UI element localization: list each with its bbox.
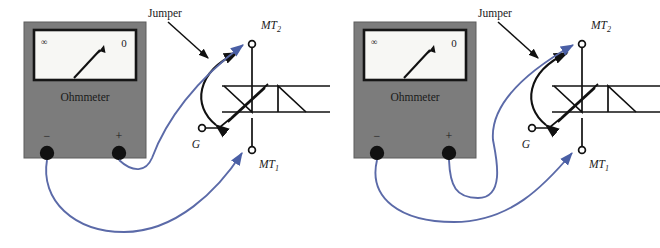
jumper-leader-line (168, 22, 208, 58)
mt1-label: MT1 (258, 158, 279, 173)
gate-diagonal-2 (558, 88, 595, 122)
negative-lead-wire (46, 153, 242, 232)
gate-label: G (192, 138, 201, 150)
mt1-label: MT1 (588, 158, 609, 173)
right-triangle (278, 86, 306, 112)
scale-label-infinity: ∞ (41, 37, 47, 47)
ohmmeter-label: Ohmmeter (390, 91, 439, 103)
negative-terminal-post[interactable] (40, 146, 54, 160)
left-triangle (224, 86, 252, 112)
triac-ohmmeter-test-figure: ∞ 0 Ohmmeter − + (0, 0, 660, 248)
mt2-terminal-node[interactable] (249, 41, 256, 48)
gate-label: G (522, 138, 531, 150)
positive-terminal-post[interactable] (442, 146, 456, 160)
negative-terminal-sign: − (44, 129, 51, 143)
scale-label-zero: 0 (451, 37, 457, 49)
gate-diagonal (231, 84, 268, 118)
ohmmeter: ∞ 0 Ohmmeter − + (354, 22, 476, 160)
mt1-terminal-node[interactable] (579, 147, 586, 154)
negative-terminal-sign: − (374, 129, 381, 143)
jumper-leader-line (498, 22, 538, 58)
ohmmeter: ∞ 0 Ohmmeter − + (24, 22, 146, 160)
triac-test-step-1: ∞ 0 Ohmmeter − + (0, 0, 330, 248)
scale-label-infinity: ∞ (371, 37, 377, 47)
mt2-label: MT2 (590, 19, 611, 34)
gate-diagonal-2 (228, 88, 265, 122)
mt1-terminal-node[interactable] (249, 147, 256, 154)
positive-terminal-sign: + (446, 129, 453, 143)
mt2-terminal-node[interactable] (579, 41, 586, 48)
ohmmeter-label: Ohmmeter (60, 91, 109, 103)
positive-lead-wire (375, 153, 572, 222)
jumper-label: Jumper (478, 7, 512, 20)
left-triangle (554, 86, 582, 112)
gate-terminal-node[interactable] (199, 125, 206, 132)
gate-terminal-node[interactable] (529, 125, 536, 132)
positive-terminal-post[interactable] (112, 146, 126, 160)
negative-terminal-post[interactable] (370, 146, 384, 160)
mt2-label: MT2 (260, 19, 281, 34)
gate-diagonal (561, 84, 598, 118)
scale-label-zero: 0 (121, 37, 127, 49)
gate-to-mt2-jumper (531, 53, 567, 125)
jumper-label: Jumper (148, 7, 182, 20)
positive-terminal-sign: + (116, 129, 123, 143)
right-triangle (608, 86, 636, 112)
triac-test-step-2: ∞ 0 Ohmmeter − + (330, 0, 660, 248)
